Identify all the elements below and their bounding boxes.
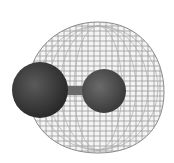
molecule-figure bbox=[0, 0, 174, 163]
small-atom bbox=[82, 69, 126, 113]
molecule-illustration bbox=[0, 0, 174, 163]
large-atom bbox=[12, 62, 68, 118]
